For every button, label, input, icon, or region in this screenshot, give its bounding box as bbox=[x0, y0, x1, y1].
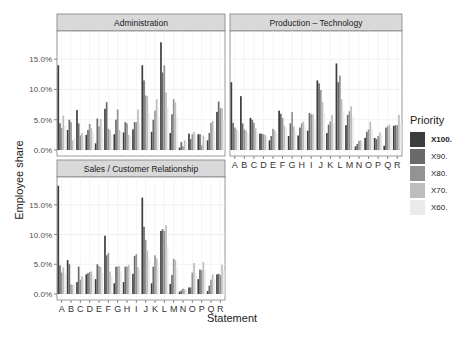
bar bbox=[139, 123, 141, 150]
bar bbox=[167, 246, 169, 294]
bar bbox=[147, 96, 149, 150]
bar bbox=[274, 131, 276, 150]
bar bbox=[230, 82, 232, 150]
bar bbox=[199, 270, 201, 294]
bar bbox=[180, 290, 182, 294]
bar bbox=[197, 134, 199, 150]
bar bbox=[259, 134, 261, 150]
bar bbox=[293, 126, 295, 150]
bar bbox=[358, 141, 360, 150]
bar bbox=[171, 114, 173, 150]
bar bbox=[341, 99, 343, 150]
bar bbox=[57, 65, 59, 150]
bar bbox=[197, 279, 199, 294]
bar bbox=[115, 267, 117, 294]
faceted-bar-chart: Administration0.0%5.0%10.0%15.0%Producti… bbox=[0, 0, 470, 338]
bar bbox=[337, 82, 339, 150]
bar bbox=[285, 129, 287, 150]
y-tick-label: 0.0% bbox=[34, 290, 52, 299]
bar bbox=[176, 267, 178, 294]
bar bbox=[59, 265, 61, 294]
bar bbox=[184, 140, 186, 150]
bar bbox=[111, 135, 113, 150]
bar bbox=[312, 114, 314, 150]
bar bbox=[128, 265, 130, 294]
x-tick-label: G bbox=[114, 304, 121, 314]
x-tick-label: L bbox=[337, 160, 342, 170]
bar bbox=[333, 123, 335, 150]
bar bbox=[304, 127, 306, 150]
bar bbox=[160, 42, 162, 150]
bar bbox=[352, 117, 354, 150]
bar bbox=[83, 279, 85, 294]
bar bbox=[212, 274, 214, 294]
bar bbox=[163, 231, 165, 294]
x-axis-title: Statement bbox=[207, 312, 257, 324]
bar bbox=[288, 136, 290, 150]
bar bbox=[350, 106, 352, 150]
bar bbox=[83, 137, 85, 150]
bar bbox=[141, 198, 143, 294]
bar bbox=[377, 136, 379, 150]
bar bbox=[322, 102, 324, 150]
bar bbox=[152, 120, 154, 150]
bar bbox=[366, 132, 368, 150]
bar bbox=[182, 289, 184, 294]
bar bbox=[295, 131, 297, 150]
bar bbox=[154, 111, 156, 150]
bar bbox=[201, 270, 203, 294]
bar bbox=[151, 132, 153, 150]
y-tick-label: 10.0% bbox=[29, 85, 52, 94]
legend-swatch bbox=[410, 132, 425, 147]
bar bbox=[72, 140, 74, 150]
bar bbox=[349, 111, 351, 150]
bar bbox=[139, 270, 141, 294]
bar bbox=[137, 109, 139, 150]
x-tick-label: A bbox=[59, 304, 65, 314]
bar bbox=[111, 276, 113, 294]
bar bbox=[95, 143, 97, 150]
bar bbox=[251, 120, 253, 150]
bar bbox=[329, 122, 331, 150]
bar bbox=[100, 267, 102, 294]
bar bbox=[113, 134, 115, 150]
bar bbox=[119, 266, 121, 294]
bar bbox=[203, 262, 205, 294]
bar bbox=[326, 133, 328, 150]
bar bbox=[309, 113, 311, 150]
bar bbox=[134, 122, 136, 150]
bar bbox=[135, 254, 137, 294]
bar bbox=[201, 145, 203, 150]
bar bbox=[303, 122, 305, 150]
bar bbox=[195, 273, 197, 294]
bar bbox=[282, 118, 284, 150]
bar bbox=[208, 133, 210, 150]
bar bbox=[182, 146, 184, 150]
x-tick-label: P bbox=[375, 160, 381, 170]
x-tick-label: D bbox=[86, 304, 93, 314]
bar bbox=[336, 63, 338, 150]
bar bbox=[64, 126, 66, 150]
bar bbox=[117, 109, 119, 150]
bar bbox=[91, 128, 93, 150]
bar bbox=[175, 102, 177, 150]
bar bbox=[167, 108, 169, 150]
legend-swatch bbox=[410, 183, 425, 198]
bar bbox=[106, 255, 108, 294]
bar bbox=[190, 287, 192, 294]
legend-label: X90. bbox=[431, 152, 447, 161]
legend: Priority X100. X90. X80. X70. X60. bbox=[410, 114, 452, 216]
bar bbox=[74, 138, 76, 150]
bar bbox=[76, 282, 78, 294]
bar bbox=[368, 129, 370, 150]
bar bbox=[191, 134, 193, 150]
bar bbox=[67, 260, 69, 294]
bar bbox=[339, 76, 341, 150]
bar bbox=[364, 138, 366, 150]
bar bbox=[179, 292, 181, 294]
facet-title: Sales / Customer Relationship bbox=[84, 164, 199, 174]
legend-label: X60. bbox=[431, 203, 447, 212]
legend-label: X80. bbox=[431, 169, 447, 178]
x-tick-label: G bbox=[289, 160, 296, 170]
bar bbox=[78, 267, 80, 294]
